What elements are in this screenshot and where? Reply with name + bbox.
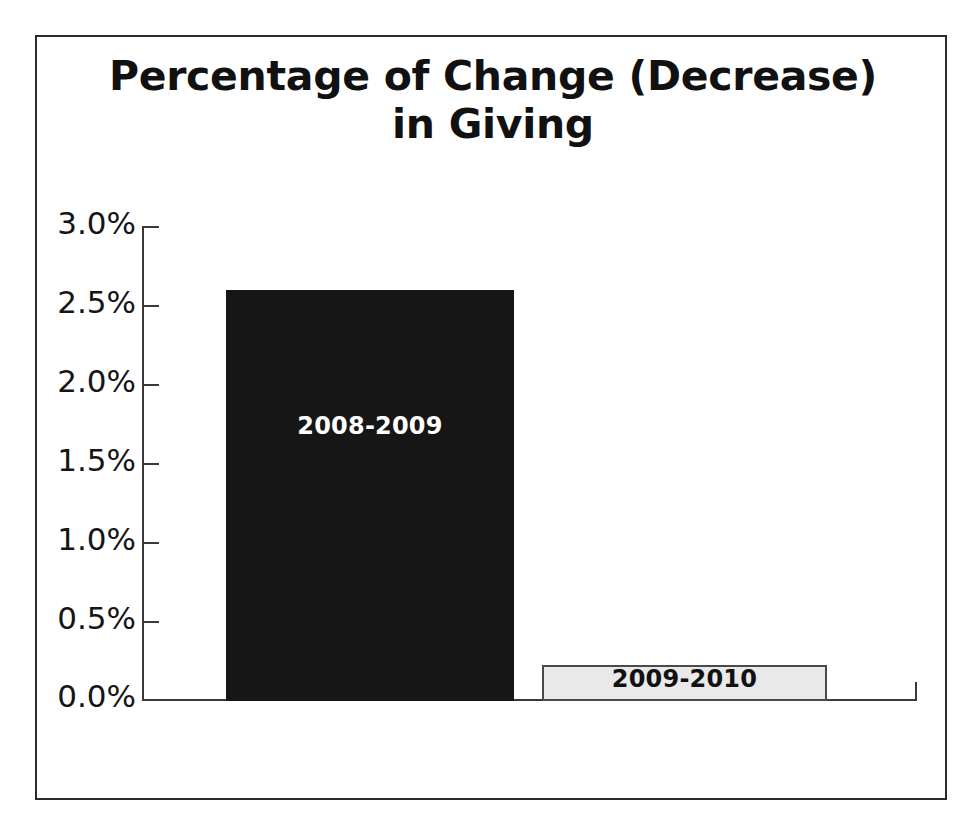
bar-label-2009-2010: 2009-2010 (544, 665, 825, 693)
bar-2009-2010[interactable]: 2009-2010 (542, 665, 827, 701)
chart-frame: Percentage of Change (Decrease) in Givin… (35, 35, 947, 800)
bar-2008-2009[interactable]: 2008-2009 (226, 290, 514, 701)
scan-canvas: Percentage of Change (Decrease) in Givin… (0, 0, 977, 839)
plot-area: 3.0% 2.5% 2.0% 1.5% 1.0% 0.5% 0.0% (37, 37, 945, 798)
bars-layer: 2008-2009 2009-2010 (37, 37, 945, 701)
bar-label-2008-2009: 2008-2009 (226, 412, 514, 440)
